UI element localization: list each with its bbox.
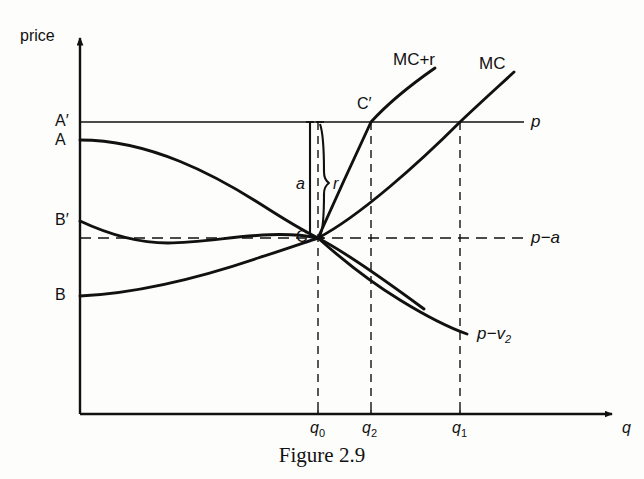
x-tick-q2: q2: [362, 420, 377, 436]
brace-a-bar: [306, 122, 314, 238]
x-tick-q0-sub: 0: [319, 427, 325, 439]
curve-label-mc-plus-r: MC+r: [393, 51, 435, 68]
x-tick-q1-base: q: [452, 419, 461, 436]
brace-label-a: a: [296, 176, 305, 192]
curve-label-p-minus-a: p−a: [531, 229, 560, 246]
curve-label-p-minus-v2-base: p−v: [477, 324, 505, 343]
x-tick-q2-base: q: [362, 419, 371, 436]
curve-p-minus-v1: [80, 140, 424, 309]
y-axis-label: price: [20, 28, 55, 44]
y-mark-B-prime: B′: [55, 212, 69, 228]
curve-label-p-minus-v2-sub: 2: [505, 333, 511, 345]
y-mark-A: A: [55, 132, 66, 148]
y-mark-B-prime-text: B: [55, 211, 66, 228]
x-tick-q1: q1: [452, 420, 467, 436]
brace-label-r: r: [333, 176, 338, 192]
y-mark-A-prime-symbol: ′: [66, 112, 69, 129]
x-tick-q2-sub: 2: [371, 427, 377, 439]
x-axis-label: q: [622, 420, 631, 436]
curve-label-mc: MC: [479, 55, 505, 72]
x-tick-q0: q0: [310, 420, 325, 436]
curve-mc-plus-r: [80, 68, 435, 243]
point-label-C: C: [296, 229, 308, 245]
curve-label-p-minus-v2: p−v2: [477, 325, 511, 342]
y-mark-B-prime-symbol: ′: [66, 211, 69, 228]
figure-container: price q A′ A B′ B q0 q2 q1 MC+r MC p p−a…: [0, 0, 644, 479]
x-tick-q0-base: q: [310, 419, 319, 436]
y-mark-B: B: [55, 287, 66, 303]
point-label-C-prime: C′: [357, 96, 372, 112]
y-mark-A-prime: A′: [55, 113, 69, 129]
y-mark-A-prime-text: A: [55, 112, 66, 129]
curve-label-p: p: [531, 113, 540, 130]
x-tick-q1-sub: 1: [461, 427, 467, 439]
figure-caption: Figure 2.9: [0, 443, 644, 468]
